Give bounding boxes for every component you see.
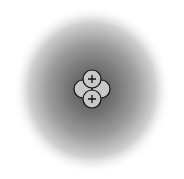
atom-diagram <box>0 0 184 179</box>
proton-particle <box>83 70 101 88</box>
proton-particle <box>83 90 101 108</box>
